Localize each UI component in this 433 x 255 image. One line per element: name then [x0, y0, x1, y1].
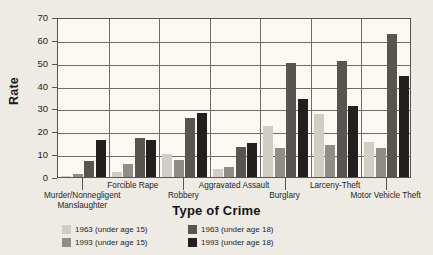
y-tick-label: 10: [18, 150, 48, 159]
bar: [162, 154, 172, 177]
y-tick-mark: [52, 178, 57, 179]
bar: [286, 63, 296, 177]
plot-area: [57, 18, 411, 178]
bar: [174, 160, 184, 177]
bar: [135, 138, 145, 177]
bar: [96, 140, 106, 177]
bar: [146, 140, 156, 177]
y-tick-label: 60: [18, 36, 48, 45]
bar: [197, 113, 207, 177]
y-tick-label: 70: [18, 13, 48, 22]
bar: [61, 176, 71, 177]
chart-title: Type of Crime: [0, 203, 433, 218]
x-axis-label: Robbery: [128, 191, 238, 201]
bar: [325, 145, 335, 177]
bar-group: [361, 19, 412, 177]
bar: [337, 61, 347, 177]
x-axis-label: Larceny-Theft: [280, 181, 390, 191]
bar-group: [260, 19, 311, 177]
bar: [73, 174, 83, 177]
legend-label: 1963 (under age 18): [201, 225, 274, 234]
bar: [224, 167, 234, 177]
chart-legend: 1963 (under age 15)1963 (under age 18)19…: [62, 224, 322, 248]
x-axis-label: Motor Vehicle Theft: [331, 191, 433, 201]
bar: [213, 169, 223, 177]
legend-swatch: [188, 238, 197, 247]
bar: [112, 172, 122, 177]
x-axis-label: Forcible Rape: [78, 181, 188, 191]
legend-swatch: [188, 225, 197, 234]
legend-label: 1993 (under age 18): [201, 238, 274, 247]
bar: [263, 126, 273, 177]
bar: [314, 114, 324, 177]
bar: [364, 142, 374, 177]
y-tick-label: 30: [18, 104, 48, 113]
bar: [348, 106, 358, 177]
bar: [236, 147, 246, 177]
legend-item: 1963 (under age 15): [62, 224, 180, 235]
y-tick-label: 50: [18, 59, 48, 68]
legend-label: 1993 (under age 15): [75, 238, 148, 247]
legend-swatch: [62, 238, 71, 247]
x-tick-mark: [386, 178, 387, 190]
bar: [275, 148, 285, 177]
bar: [376, 148, 386, 177]
legend-item: 1963 (under age 18): [188, 224, 306, 235]
bar-group: [159, 19, 210, 177]
bar: [387, 34, 397, 177]
bar: [247, 143, 257, 177]
x-axis-label: Burglary: [230, 191, 340, 201]
y-tick-label: 40: [18, 82, 48, 91]
bar: [123, 164, 133, 177]
bar-group: [58, 19, 109, 177]
bar-group: [109, 19, 160, 177]
bar-group: [210, 19, 261, 177]
legend-item: 1993 (under age 18): [188, 237, 306, 248]
bar: [399, 76, 409, 177]
bar-group: [311, 19, 362, 177]
bar: [185, 118, 195, 177]
legend-item: 1993 (under age 15): [62, 237, 180, 248]
legend-swatch: [62, 225, 71, 234]
bar-chart-figure: Rate 010203040506070 Murder/Nonnegligent…: [0, 0, 433, 255]
x-axis-label: Aggravated Assault: [179, 181, 289, 191]
bar: [84, 161, 94, 177]
y-tick-label: 0: [18, 173, 48, 182]
bar: [298, 99, 308, 177]
y-tick-label: 20: [18, 127, 48, 136]
legend-label: 1963 (under age 15): [75, 225, 148, 234]
